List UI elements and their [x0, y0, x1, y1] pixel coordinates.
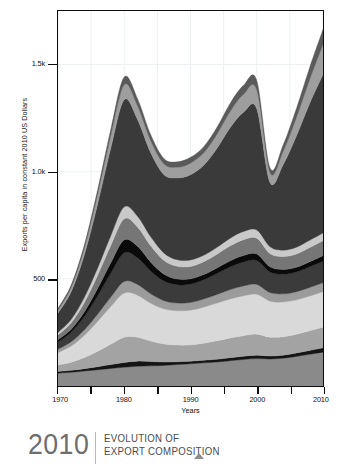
x-tick-label: 1970 — [52, 395, 68, 404]
stacked-area-plot — [57, 10, 324, 387]
y-tick: 500 — [0, 279, 57, 280]
x-tick-mark — [157, 387, 158, 394]
x-axis-title: Years — [57, 406, 324, 415]
export-composition-figure: Exports per capita in constant 2010 US D… — [0, 0, 337, 474]
y-tick-label: 1.5k — [32, 59, 45, 68]
y-tick-mark — [48, 279, 57, 280]
x-tick-mark — [191, 387, 192, 394]
caption-title-line1: EVOLUTION OF — [104, 433, 220, 446]
y-tick-mark — [48, 172, 57, 173]
x-tick-mark — [257, 387, 258, 394]
figure-caption: 2010 EVOLUTION OF EXPORT COMPOSITION — [0, 432, 337, 474]
y-tick-label: 1.0k — [32, 167, 45, 176]
x-tick-label: 1980 — [116, 395, 132, 404]
x-tick-mark — [57, 387, 58, 394]
triangle-up-icon — [194, 453, 204, 459]
y-tick: 1.0k — [0, 172, 57, 173]
caption-divider — [95, 432, 96, 464]
x-tick-mark — [124, 387, 125, 394]
chart-area: Exports per capita in constant 2010 US D… — [0, 0, 337, 410]
x-tick-mark — [291, 387, 292, 394]
area-chart-svg — [58, 11, 323, 386]
x-tick-mark — [90, 387, 91, 394]
x-tick-mark — [324, 387, 325, 394]
y-tick-label: 500 — [33, 274, 45, 283]
y-tick: 1.5k — [0, 64, 57, 65]
caption-year: 2010 — [28, 430, 89, 459]
x-tick-mark — [224, 387, 225, 394]
y-axis-title: Exports per capita in constant 2010 US D… — [20, 55, 29, 295]
x-tick-label: 2000 — [249, 395, 265, 404]
y-tick-mark — [48, 64, 57, 65]
x-tick-label: 2010 — [313, 395, 329, 404]
x-tick-label: 1990 — [183, 395, 199, 404]
